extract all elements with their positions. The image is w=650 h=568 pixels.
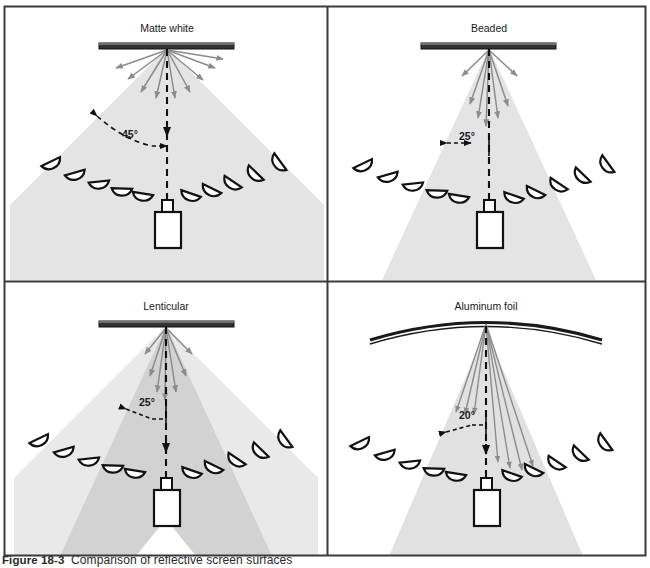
screen-bar-highlight	[99, 321, 234, 323]
matte-white-illustration: 45°	[4, 6, 324, 280]
panel-title-aluminum-foil: Aluminum foil	[454, 300, 517, 312]
panel-aluminum-foil: 20° Al	[328, 284, 646, 556]
figure-caption-label: Figure 18-3	[2, 556, 71, 566]
panel-grid: 45°	[4, 6, 646, 556]
screen-bar-highlight	[99, 43, 234, 45]
screen-bar-highlight	[421, 43, 556, 45]
angle-label: 25°	[139, 396, 155, 408]
figure-caption-body: Comparison of reflective screen surfaces	[71, 556, 292, 567]
lenticular-illustration: 25° Le	[4, 284, 324, 556]
angle-label: 20°	[459, 409, 475, 421]
figure-caption-row: Figure 18-3 Comparison of reflective scr…	[0, 556, 650, 568]
figure-caption: Figure 18-3 Comparison of reflective scr…	[2, 556, 292, 567]
angle-label: 25°	[459, 130, 475, 142]
panel-beaded: 25° Be	[328, 6, 646, 280]
panel-lenticular: 25° Le	[4, 284, 324, 556]
angle-label: 45°	[122, 128, 138, 140]
panel-title-matte-white: Matte white	[140, 22, 194, 34]
aluminum-foil-illustration: 20° Al	[328, 284, 646, 556]
panel-title-lenticular: Lenticular	[143, 300, 189, 312]
panel-title-beaded: Beaded	[471, 22, 507, 34]
panel-matte-white: 45°	[4, 6, 324, 280]
beaded-illustration: 25° Be	[328, 6, 646, 280]
